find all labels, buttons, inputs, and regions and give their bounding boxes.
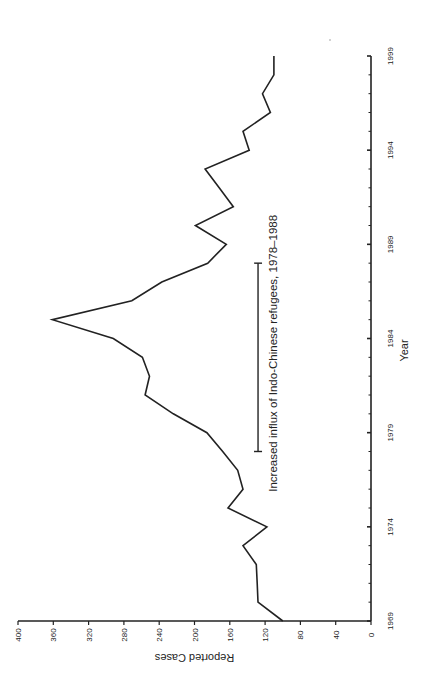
scan-dot	[329, 39, 331, 41]
value-tick-label: 200	[191, 628, 200, 642]
year-tick-label: 1999	[386, 47, 395, 65]
value-tick-label: 40	[332, 630, 341, 639]
value-tick-label: 0	[367, 632, 376, 637]
year-tick-label: 1994	[386, 141, 395, 159]
value-tick-label: 120	[261, 628, 270, 642]
x-axis-title: Year	[398, 339, 410, 362]
year-axis: 1969197419791984198919941999	[367, 47, 395, 630]
y-axis-title: Reported Cases	[154, 652, 234, 664]
year-tick-label: 1969	[386, 612, 395, 630]
year-tick-label: 1979	[386, 423, 395, 441]
rotated-line-chart: 04080120160200240280320360400 1969197419…	[0, 0, 427, 676]
value-tick-label: 80	[296, 630, 305, 639]
year-tick-label: 1984	[386, 329, 395, 347]
year-tick-label: 1989	[386, 235, 395, 253]
value-tick-label: 360	[49, 628, 58, 642]
refugee-influx-annotation: Increased influx of Indo-Chinese refugee…	[254, 39, 331, 492]
value-tick-label: 320	[85, 628, 94, 642]
value-tick-label: 160	[226, 628, 235, 642]
year-tick-label: 1974	[386, 517, 395, 535]
reported-cases-line	[52, 56, 282, 621]
value-tick-label: 280	[120, 628, 129, 642]
annotation-text: Increased influx of Indo-Chinese refugee…	[267, 215, 279, 492]
value-tick-label: 240	[155, 628, 164, 642]
value-tick-label: 400	[14, 628, 23, 642]
reported-cases-axis: 04080120160200240280320360400	[14, 621, 376, 642]
